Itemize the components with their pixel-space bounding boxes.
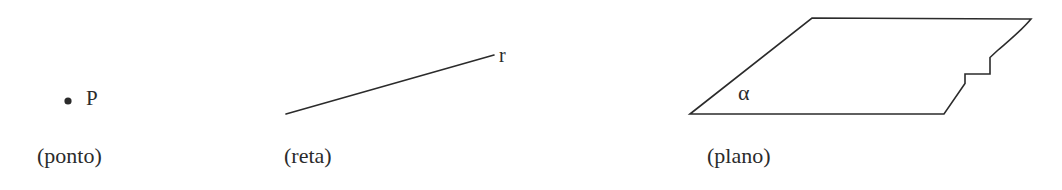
plane-label-alpha: α bbox=[738, 82, 750, 104]
line-segment-icon bbox=[286, 55, 494, 114]
geometry-figure: P r α (ponto) (reta) (plano) bbox=[0, 0, 1062, 190]
line-label: r bbox=[499, 45, 506, 65]
caption-plano: (plano) bbox=[707, 145, 771, 167]
point-label: P bbox=[86, 88, 98, 109]
caption-ponto: (ponto) bbox=[37, 145, 102, 167]
caption-reta: (reta) bbox=[284, 145, 332, 167]
point-dot-icon bbox=[64, 97, 71, 104]
figure-canvas bbox=[0, 0, 1062, 190]
